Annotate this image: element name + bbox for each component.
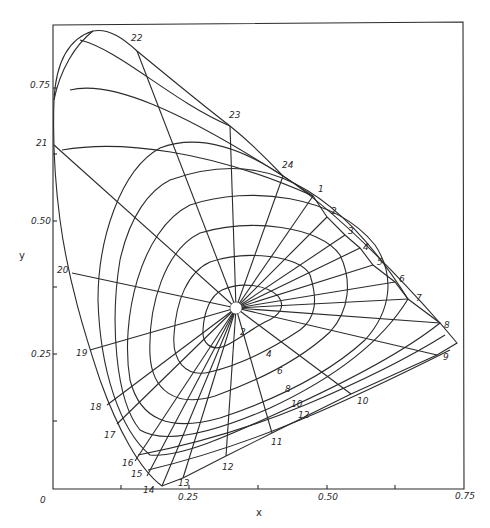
chromaticity-chart: 0 0.25 0.50 0.75 0.25 0.50 0.75 x y 1234…	[0, 0, 490, 528]
hue-label-10: 10	[357, 396, 369, 406]
hue-line-3	[236, 235, 345, 308]
hue-label-11: 11	[271, 437, 282, 447]
x-tick-0: 0	[40, 495, 46, 505]
y-axis-label: y	[19, 250, 25, 261]
chroma-contour-outer-2	[70, 88, 283, 176]
chroma-contour-6	[150, 226, 348, 400]
hue-line-21	[54, 145, 236, 308]
hue-label-4: 4	[363, 242, 369, 252]
hue-line-1	[236, 196, 313, 308]
contour-label-8: 8	[285, 384, 291, 394]
hue-label-12: 12	[222, 462, 234, 472]
hue-label-14: 14	[143, 485, 155, 495]
chroma-contour-outer-1	[80, 40, 230, 126]
y-tick-0.75: 0.75	[30, 80, 50, 90]
contour-label-4: 4	[266, 349, 272, 359]
x-tick-0.75: 0.75	[455, 491, 475, 501]
hue-label-23: 23	[229, 110, 241, 120]
contour-label-6: 6	[277, 366, 283, 376]
hue-line-22	[137, 51, 236, 308]
white-point-marker	[230, 302, 242, 314]
hue-label-21: 21	[36, 138, 47, 148]
hue-label-20: 20	[57, 265, 69, 275]
hue-label-18: 18	[90, 402, 102, 412]
x-tick-0.25: 0.25	[178, 492, 198, 502]
contour-label-2: 2	[240, 327, 246, 337]
hue-line-20	[72, 273, 236, 308]
y-tick-0.50: 0.50	[31, 216, 51, 226]
hue-label-2: 2	[331, 206, 337, 216]
hue-label-6: 6	[399, 274, 405, 284]
hue-line-23	[230, 126, 236, 308]
hue-label-3: 3	[348, 226, 354, 236]
y-tick-0.25: 0.25	[31, 349, 51, 359]
hue-label-8: 8	[444, 320, 450, 330]
hue-line-18	[107, 308, 236, 405]
contour-label-10: 10	[291, 399, 303, 409]
hue-label-16: 16	[122, 458, 134, 468]
hue-label-17: 17	[104, 430, 116, 440]
chroma-contours	[62, 40, 450, 470]
spectrum-locus	[54, 31, 457, 486]
hue-labels: 123456789101112131415161718192021222324	[36, 33, 450, 495]
hue-label-24: 24	[282, 160, 294, 170]
hue-label-9: 9	[443, 352, 449, 362]
hue-lines	[54, 51, 440, 486]
x-axis-label: x	[256, 507, 262, 518]
chroma-contour-inner-lower-2	[138, 335, 445, 455]
hue-line-14	[162, 308, 236, 486]
hue-label-22: 22	[131, 33, 143, 43]
hue-label-15: 15	[131, 469, 143, 479]
chroma-contour-2	[203, 285, 282, 348]
hue-label-1: 1	[318, 184, 324, 194]
hue-label-19: 19	[76, 348, 88, 358]
hue-label-5: 5	[377, 257, 383, 267]
hue-label-7: 7	[416, 293, 422, 303]
hue-line-2	[236, 217, 327, 308]
contour-label-12: 12	[298, 410, 310, 420]
x-tick-0.50: 0.50	[318, 492, 338, 502]
hue-label-13: 13	[178, 478, 190, 488]
